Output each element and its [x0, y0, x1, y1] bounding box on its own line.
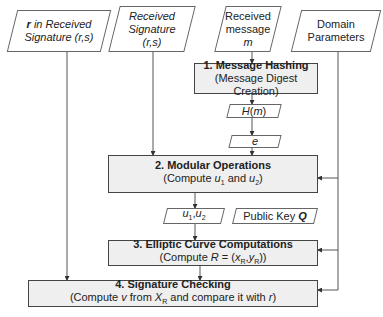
step-message-hashing: 1. Message Hashing(Message Digest Creati…	[194, 63, 318, 94]
node-u1-u2: u1,u2	[165, 208, 223, 224]
node-e: e	[230, 135, 280, 148]
node-public-key: Public Key Q	[234, 208, 316, 224]
input-received-signature: ReceivedSignature(r,s)	[114, 6, 190, 52]
input-r-in-signature: r in ReceivedSignature (r,s)	[12, 10, 106, 52]
input-received-message: Receivedmessagem	[220, 6, 276, 52]
step-modular-operations: 2. Modular Operations(Compute u1 and u2)	[108, 155, 318, 193]
input-domain-parameters: DomainParameters	[296, 10, 376, 52]
step-elliptic-curve: 3. Elliptic Curve Computations(Compute R…	[108, 240, 318, 266]
step-signature-checking: 4. Signature Checking(Compute v from XR …	[28, 280, 318, 307]
node-hash: H(m)	[228, 104, 280, 118]
